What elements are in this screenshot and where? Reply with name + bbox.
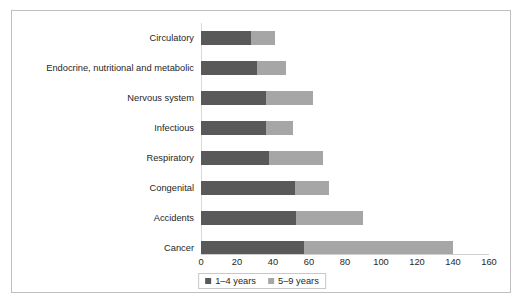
x-tick-label: 0 [181,257,221,267]
category-label-text: Accidents [154,213,198,223]
stacked-bar[interactable] [201,181,329,195]
category-label-text: Respiratory [146,153,198,163]
bar-segment-1-4-years[interactable] [201,151,269,165]
bar-track [201,143,512,173]
bar-segment-5-9-years[interactable] [304,241,453,255]
category-axis-line [201,254,489,255]
chart-row: Respiratory [12,143,512,173]
category-label-text: Cancer [164,243,198,253]
x-tick-label: 120 [397,257,437,267]
bar-segment-5-9-years[interactable] [266,91,313,105]
category-label: Infectious [12,113,198,143]
x-tick-label: 100 [361,257,401,267]
chart-row: Circulatory [12,23,512,53]
bar-track [201,203,512,233]
bar-segment-1-4-years[interactable] [201,241,304,255]
category-label: Nervous system [12,83,198,113]
category-label: Respiratory [12,143,198,173]
stacked-bar[interactable] [201,31,275,45]
chart-row: Nervous system [12,83,512,113]
bar-segment-1-4-years[interactable] [201,121,266,135]
category-label: Congenital [12,173,198,203]
bar-segment-1-4-years[interactable] [201,91,266,105]
x-tick-label: 140 [433,257,473,267]
category-label-text: Congenital [150,183,198,193]
bar-segment-5-9-years[interactable] [257,61,286,75]
chart-row: Infectious [12,113,512,143]
bar-segment-1-4-years[interactable] [201,31,251,45]
stacked-bar[interactable] [201,91,313,105]
x-axis-tick-labels: 020406080100120140160 [12,257,512,273]
bar-segment-1-4-years[interactable] [201,61,257,75]
bar-segment-5-9-years[interactable] [266,121,293,135]
x-tick-label: 20 [217,257,257,267]
category-label: Accidents [12,203,198,233]
bar-track [201,113,512,143]
stacked-bar[interactable] [201,151,323,165]
bar-segment-5-9-years[interactable] [296,211,363,225]
stacked-bar[interactable] [201,211,363,225]
legend-swatch-icon [205,278,211,284]
x-tick-label: 80 [325,257,365,267]
bar-segment-1-4-years[interactable] [201,181,295,195]
bar-segment-1-4-years[interactable] [201,211,296,225]
bar-segment-5-9-years[interactable] [269,151,323,165]
bar-track [201,53,512,83]
bar-track [201,173,512,203]
category-label-text: Circulatory [150,33,198,43]
legend-swatch-icon [268,278,274,284]
legend-label: 1–4 years [215,276,256,286]
x-tick-label: 160 [469,257,509,267]
category-label-text: Infectious [154,123,198,133]
bar-track [201,83,512,113]
x-tick-label: 60 [289,257,329,267]
chart-frame: CirculatoryEndocrine, nutritional and me… [11,10,511,293]
stacked-bar[interactable] [201,61,286,75]
stacked-bar[interactable] [201,241,453,255]
legend-item[interactable]: 5–9 years [268,276,319,286]
category-label: Endocrine, nutritional and metabolic [12,53,198,83]
category-label-text: Endocrine, nutritional and metabolic [46,63,198,73]
chart-row: Endocrine, nutritional and metabolic [12,53,512,83]
bar-segment-5-9-years[interactable] [251,31,274,45]
legend-label: 5–9 years [278,276,319,286]
stacked-bar[interactable] [201,121,293,135]
category-label: Circulatory [12,23,198,53]
plot-area: CirculatoryEndocrine, nutritional and me… [12,11,512,294]
bar-rows: CirculatoryEndocrine, nutritional and me… [12,11,512,251]
bar-track [201,23,512,53]
bar-segment-5-9-years[interactable] [295,181,329,195]
chart-legend: 1–4 years5–9 years [198,273,326,289]
x-tick-label: 40 [253,257,293,267]
category-label-text: Nervous system [127,93,198,103]
chart-row: Congenital [12,173,512,203]
chart-row: Accidents [12,203,512,233]
legend-item[interactable]: 1–4 years [205,276,256,286]
